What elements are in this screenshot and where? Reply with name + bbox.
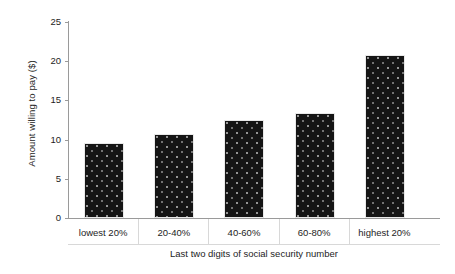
y-tick-0: 0 <box>0 218 69 219</box>
y-tick-label: 15 <box>50 94 61 105</box>
y-tick-25: 25 <box>0 22 69 23</box>
y-tick-10: 10 <box>0 140 69 141</box>
bar-slot <box>350 0 420 219</box>
bar <box>84 143 124 218</box>
x-category-label: 20-40% <box>138 219 208 245</box>
bars-layer <box>69 0 420 219</box>
bar-chart: Amount willing to pay ($) 0510152025 low… <box>0 0 455 274</box>
y-tick-5: 5 <box>0 179 69 180</box>
x-category-label: 40-60% <box>208 219 278 245</box>
x-category-label: 60-80% <box>279 219 349 245</box>
y-tick-label: 20 <box>50 55 61 66</box>
x-axis-title: Last two digits of social security numbe… <box>68 248 440 259</box>
y-tick-label: 0 <box>56 212 61 223</box>
bar-slot <box>209 0 279 219</box>
y-axis-title: Amount willing to pay ($) <box>26 19 37 209</box>
y-tick-label: 25 <box>50 16 61 27</box>
bar <box>224 120 264 218</box>
y-tick-label: 10 <box>50 134 61 145</box>
bar <box>154 134 194 218</box>
y-tick-15: 15 <box>0 100 69 101</box>
bar-slot <box>139 0 209 219</box>
bar <box>295 113 335 218</box>
y-tick-label: 5 <box>56 173 61 184</box>
x-category-label: lowest 20% <box>68 219 138 245</box>
x-axis-category-labels: lowest 20%20-40%40-60%60-80%highest 20% <box>68 219 440 245</box>
x-category-label: highest 20% <box>349 219 419 245</box>
bar-slot <box>280 0 350 219</box>
y-tick-20: 20 <box>0 61 69 62</box>
bar-slot <box>69 0 139 219</box>
bar <box>365 55 405 218</box>
